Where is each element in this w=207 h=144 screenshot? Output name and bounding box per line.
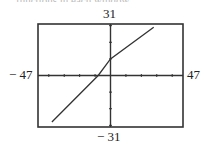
- axes: [38, 24, 183, 127]
- graph-window: [0, 0, 207, 144]
- function-line: [52, 27, 154, 122]
